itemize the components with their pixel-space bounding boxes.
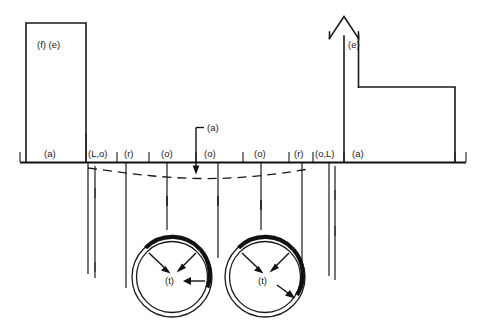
marker-pair-Lo-left — [88, 163, 95, 278]
tunnel-right-convergence-arrows — [242, 253, 295, 299]
tunnel-left-convergence-arrows — [149, 253, 205, 285]
convergence-arrow-head — [161, 266, 171, 274]
right-building-spire: (e) — [330, 17, 456, 163]
diagram-canvas: (f) (e) (e) (a) (L,o) (r) (o) (o) — [0, 0, 477, 324]
left-building: (f) (e) — [26, 23, 86, 162]
tunnel-left-lining-arc-right — [201, 250, 210, 288]
surface-label-Lo: (L,o) — [88, 148, 108, 159]
callout-arrowhead — [193, 166, 200, 175]
surface-label-o-2: (o) — [204, 148, 216, 159]
surface-label-o-3: (o) — [254, 148, 266, 159]
tunnel-left-label: (t) — [165, 275, 174, 286]
surface-zone-ticks — [20, 133, 466, 162]
surface-label-r-left: (r) — [124, 148, 134, 159]
figure-svg: (f) (e) (e) (a) (L,o) (r) (o) (o) — [0, 0, 477, 324]
convergence-arrow-head — [254, 266, 264, 274]
convergence-arrow-head — [183, 277, 191, 285]
settlement-trough-curve — [88, 168, 312, 179]
surface-label-o-1: (o) — [161, 148, 173, 159]
tunnel-right: (t) — [225, 237, 305, 317]
surface-label-a-right: (a) — [352, 148, 364, 159]
surface-label-r-right: (r) — [294, 148, 304, 159]
left-building-label: (f) (e) — [37, 39, 60, 50]
marker-pair-oL-right — [329, 163, 335, 280]
right-wing-outline — [359, 87, 456, 162]
settlement-trough-label: (a) — [207, 122, 219, 133]
ground-surface-labels: (a) (L,o) (r) (o) (o) (o) (r) (o,L) (a) — [44, 148, 364, 159]
surface-label-oL: (o,L) — [315, 148, 335, 159]
surface-label-a-left: (a) — [44, 148, 56, 159]
tunnel-right-label: (t) — [258, 275, 267, 286]
tunnel-left: (t) — [132, 237, 212, 317]
settlement-trough — [88, 168, 312, 179]
right-building-label: (e) — [348, 39, 360, 50]
